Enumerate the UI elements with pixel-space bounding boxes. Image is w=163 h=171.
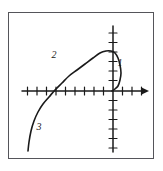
x-axis-arrowhead [141, 87, 149, 95]
x-axis-group [22, 87, 149, 95]
figure-root: 1 2 3 [0, 0, 163, 171]
curve-label-3: 3 [36, 121, 42, 132]
curve-label-1: 1 [118, 57, 123, 68]
curve-label-2: 2 [52, 49, 57, 60]
plotted-curve [28, 51, 121, 151]
coordinate-plot: 1 2 3 [0, 0, 163, 171]
